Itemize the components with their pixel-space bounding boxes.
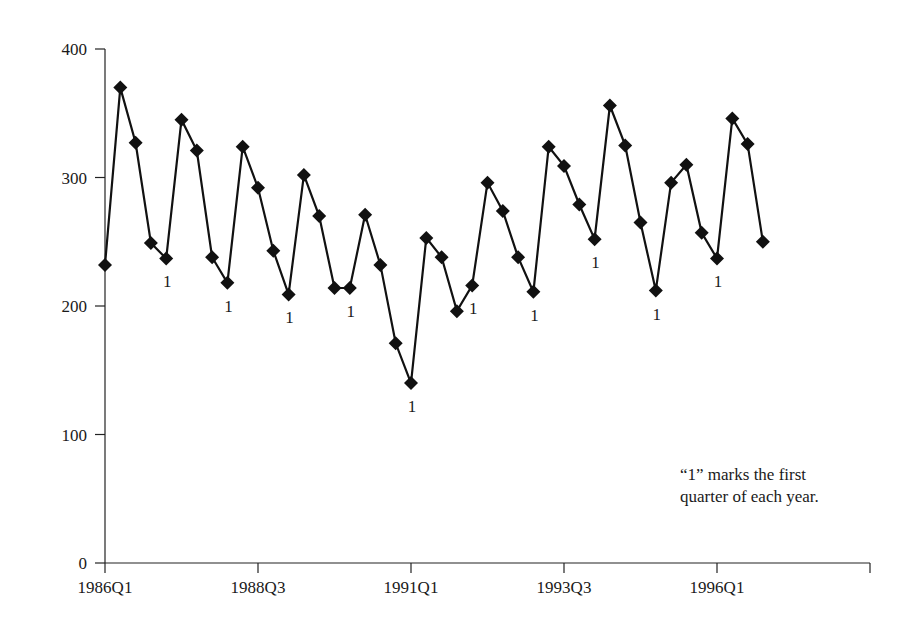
diamond-marker bbox=[129, 136, 143, 150]
y-tick-label: 400 bbox=[62, 40, 88, 59]
q1-label: 1 bbox=[408, 397, 417, 416]
diamond-marker bbox=[343, 281, 357, 295]
diamond-marker bbox=[236, 140, 250, 154]
diamond-marker bbox=[251, 181, 265, 195]
q1-label: 1 bbox=[224, 297, 233, 316]
y-tick-label: 0 bbox=[79, 554, 88, 573]
q1-label: 1 bbox=[285, 308, 294, 327]
x-tick-label: 1996Q1 bbox=[690, 578, 745, 597]
diamond-marker bbox=[175, 113, 189, 127]
diamond-marker bbox=[282, 287, 296, 301]
diamond-marker bbox=[695, 226, 709, 240]
y-tick-label: 300 bbox=[62, 169, 88, 188]
q1-label: 1 bbox=[163, 272, 172, 291]
diamond-marker bbox=[618, 138, 632, 152]
diamond-marker bbox=[741, 137, 755, 151]
diamond-marker bbox=[710, 251, 724, 265]
diamond-marker bbox=[220, 276, 234, 290]
annotation-note: “1” marks the first quarter of each year… bbox=[680, 464, 819, 508]
q1-label: 1 bbox=[653, 305, 662, 324]
diamond-marker bbox=[526, 285, 540, 299]
diamond-marker bbox=[373, 258, 387, 272]
x-tick-label: 1991Q1 bbox=[384, 578, 439, 597]
y-axis-ticks: 0100200300400 bbox=[62, 40, 106, 573]
diamond-marker bbox=[450, 304, 464, 318]
diamond-marker bbox=[389, 336, 403, 350]
q1-label: 1 bbox=[347, 302, 356, 321]
diamond-marker bbox=[756, 235, 770, 249]
diamond-marker bbox=[312, 209, 326, 223]
diamond-marker bbox=[358, 208, 372, 222]
x-axis-ticks: 1986Q11988Q31991Q11993Q31996Q1 bbox=[78, 563, 870, 597]
diamond-marker bbox=[572, 197, 586, 211]
diamond-marker bbox=[266, 244, 280, 258]
q1-label: 1 bbox=[530, 306, 539, 325]
diamond-marker bbox=[297, 168, 311, 182]
diamond-marker bbox=[98, 258, 112, 272]
annotation-line-1: “1” marks the first bbox=[680, 464, 819, 486]
diamond-marker bbox=[481, 176, 495, 190]
diamond-marker bbox=[725, 111, 739, 125]
series-line bbox=[105, 88, 763, 384]
diamond-marker bbox=[113, 81, 127, 95]
x-tick-label: 1993Q3 bbox=[537, 578, 592, 597]
x-tick-label: 1988Q3 bbox=[231, 578, 286, 597]
x-tick-label: 1986Q1 bbox=[78, 578, 133, 597]
diamond-marker bbox=[649, 284, 663, 298]
diamond-marker bbox=[190, 144, 204, 158]
diamond-marker bbox=[603, 99, 617, 113]
diamond-marker bbox=[511, 250, 525, 264]
diamond-marker bbox=[205, 250, 219, 264]
diamond-marker bbox=[634, 215, 648, 229]
data-markers bbox=[98, 81, 770, 391]
diamond-marker bbox=[328, 281, 342, 295]
diamond-marker bbox=[465, 278, 479, 292]
y-tick-label: 200 bbox=[62, 297, 88, 316]
line-chart: 0100200300400 1986Q11988Q31991Q11993Q319… bbox=[0, 0, 912, 638]
q1-label: 1 bbox=[591, 253, 600, 272]
diamond-marker bbox=[496, 204, 510, 218]
annotation-line-2: quarter of each year. bbox=[680, 486, 819, 508]
y-tick-label: 100 bbox=[62, 426, 88, 445]
diamond-marker bbox=[588, 232, 602, 246]
diamond-marker bbox=[404, 376, 418, 390]
q1-labels: 1111111111 bbox=[163, 253, 722, 416]
q1-label: 1 bbox=[469, 299, 478, 318]
q1-label: 1 bbox=[714, 272, 723, 291]
